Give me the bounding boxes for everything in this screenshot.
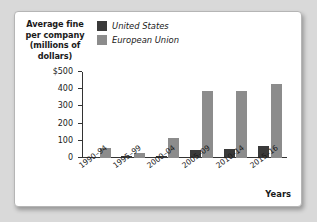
y-axis-title-line-2: per company bbox=[19, 30, 91, 41]
x-axis-tick-labels: 1990–941995–992000–042005–092010–142015–… bbox=[82, 158, 287, 198]
y-axis-title: Average fine per company (millions of do… bbox=[19, 19, 91, 61]
x-axis-title: Years bbox=[265, 189, 291, 199]
plot-area: $5004003002001000 bbox=[82, 72, 287, 158]
x-axis-label-slot: 2010–14 bbox=[219, 158, 253, 198]
legend-swatch-united-states bbox=[97, 21, 107, 31]
y-axis-title-line-1: Average fine bbox=[19, 19, 91, 30]
bar-group bbox=[190, 72, 214, 158]
y-axis-tick-label: 100 bbox=[58, 136, 73, 145]
legend-label-united-states: United States bbox=[112, 21, 169, 31]
y-axis-tick-label: 300 bbox=[58, 101, 73, 110]
legend-item-european-union: European Union bbox=[97, 35, 179, 45]
y-axis-tick-label: 200 bbox=[58, 119, 73, 128]
y-axis-title-line-3: (millions of bbox=[19, 40, 91, 51]
legend-item-united-states: United States bbox=[97, 21, 179, 31]
bar-series-container bbox=[82, 72, 287, 158]
bar-chart: Average fine per company (millions of do… bbox=[15, 12, 301, 206]
legend-swatch-european-union bbox=[97, 35, 107, 45]
y-axis-tick-label: 0 bbox=[68, 153, 73, 162]
chart-card: Average fine per company (millions of do… bbox=[14, 11, 302, 207]
x-axis-label-slot: 2000–04 bbox=[150, 158, 184, 198]
y-axis-tick-label: $500 bbox=[53, 67, 73, 76]
x-axis-label-slot: 2005–09 bbox=[185, 158, 219, 198]
chart-legend: United States European Union bbox=[97, 21, 179, 49]
y-axis-tick-label: 400 bbox=[58, 84, 73, 93]
y-axis-title-line-4: dollars) bbox=[19, 51, 91, 62]
legend-label-european-union: European Union bbox=[112, 35, 179, 45]
x-axis-label-slot: 1990–94 bbox=[82, 158, 116, 198]
